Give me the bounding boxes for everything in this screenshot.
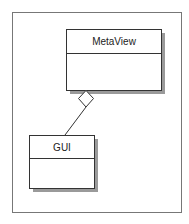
class-metaview-name: MetaView bbox=[92, 36, 137, 47]
class-gui[interactable]: GUI bbox=[30, 136, 99, 193]
class-gui-name: GUI bbox=[53, 142, 71, 153]
uml-diagram: MetaView GUI bbox=[0, 0, 189, 224]
class-metaview[interactable]: MetaView bbox=[67, 30, 166, 95]
